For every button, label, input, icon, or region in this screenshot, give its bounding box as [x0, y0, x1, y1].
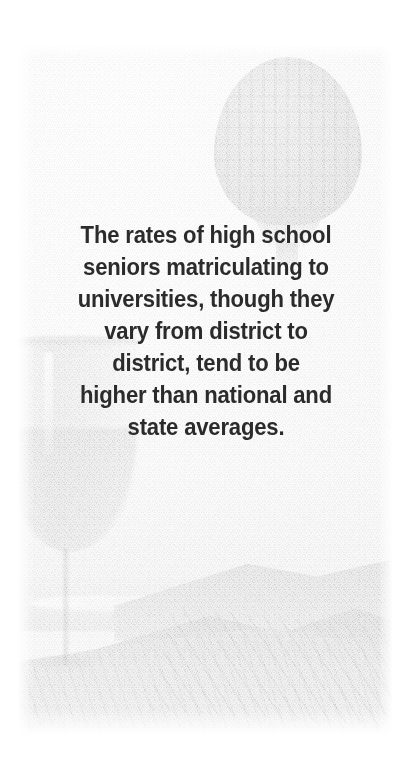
glass-highlight	[44, 352, 53, 456]
poster-canvas: The rates of high school seniors matricu…	[0, 0, 412, 767]
glass-foot	[18, 656, 120, 678]
balloon-envelope	[214, 57, 362, 225]
hillside-texture	[148, 607, 392, 727]
wine-liquid	[18, 428, 136, 548]
glass-stem	[62, 548, 70, 666]
pull-quote-text: The rates of high school seniors matricu…	[67, 219, 345, 443]
